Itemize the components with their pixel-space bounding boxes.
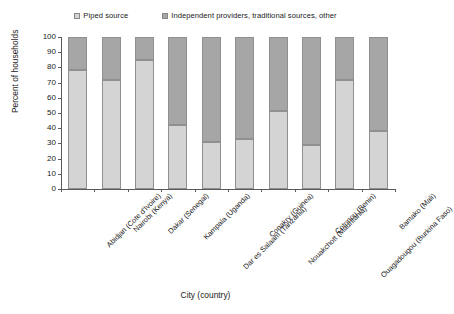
bar-group[interactable]: [369, 37, 388, 189]
y-tick-label: 40: [47, 124, 56, 132]
bar-group[interactable]: [168, 37, 187, 189]
bar-segment-piped[interactable]: [102, 80, 121, 189]
bar-segment-independent[interactable]: [302, 37, 321, 145]
x-category-label: Abidjan (Cote d'Ivoire): [105, 192, 162, 249]
y-tick-label: 20: [47, 155, 56, 163]
bar-segment-piped[interactable]: [269, 111, 288, 189]
bar-segment-piped[interactable]: [335, 80, 354, 189]
bar-segment-piped[interactable]: [235, 139, 254, 189]
bar-group[interactable]: [202, 37, 221, 189]
y-tick-label: 0: [52, 185, 56, 193]
bar-segment-piped[interactable]: [68, 70, 87, 189]
y-tick-label: 90: [47, 48, 56, 56]
bar-segment-independent[interactable]: [335, 37, 354, 80]
bar-segment-piped[interactable]: [168, 125, 187, 189]
bar-group[interactable]: [335, 37, 354, 189]
bar-group[interactable]: [68, 37, 87, 189]
bar-segment-independent[interactable]: [135, 37, 154, 60]
bar-segment-independent[interactable]: [168, 37, 187, 125]
x-axis-category-labels: Abidjan (Cote d'Ivoire)Nairobi (Kenya)Da…: [61, 192, 395, 292]
bar-segment-independent[interactable]: [269, 37, 288, 111]
y-axis-title: Percent of households: [11, 30, 19, 113]
bars-layer: [61, 37, 395, 189]
legend-entry-piped-source: Piped source: [74, 12, 128, 20]
x-category-label: Conakry (Guinea): [268, 192, 314, 238]
x-tick-mark: [395, 189, 396, 192]
bar-segment-piped[interactable]: [302, 145, 321, 189]
bar-segment-piped[interactable]: [202, 142, 221, 189]
bar-group[interactable]: [235, 37, 254, 189]
bar-group[interactable]: [102, 37, 121, 189]
bar-segment-independent[interactable]: [102, 37, 121, 80]
bar-segment-independent[interactable]: [369, 37, 388, 131]
legend-label-piped-source: Piped source: [83, 12, 128, 20]
y-tick-label: 80: [47, 63, 56, 71]
y-tick-label: 10: [47, 170, 56, 178]
x-category-label: Cotonou (Benin): [333, 192, 376, 235]
y-tick-label: 30: [47, 139, 56, 147]
y-tick-label: 60: [47, 94, 56, 102]
legend-label-independent-providers: Independent providers, traditional sourc…: [171, 12, 336, 20]
bar-segment-independent[interactable]: [68, 37, 87, 70]
bar-segment-piped[interactable]: [135, 60, 154, 189]
plot-area: 0102030405060708090100: [61, 37, 395, 189]
bar-segment-piped[interactable]: [369, 131, 388, 189]
legend-entry-independent-providers: Independent providers, traditional sourc…: [162, 12, 336, 20]
bar-group[interactable]: [269, 37, 288, 189]
x-category-label: Kampala (Uganda): [202, 192, 251, 241]
x-axis-title: City (country): [0, 291, 411, 299]
legend-swatch-piped-source: [74, 13, 80, 19]
y-tick-label: 70: [47, 79, 56, 87]
bar-segment-independent[interactable]: [235, 37, 254, 139]
y-tick-label: 100: [43, 33, 56, 41]
x-category-label: Dar es Salaam (Tanzania): [242, 205, 308, 271]
legend-swatch-independent-providers: [162, 13, 168, 19]
bar-segment-independent[interactable]: [202, 37, 221, 142]
chart-legend: Piped source Independent providers, trad…: [0, 9, 411, 23]
bar-group[interactable]: [302, 37, 321, 189]
y-tick-label: 50: [47, 109, 56, 117]
bar-group[interactable]: [135, 37, 154, 189]
